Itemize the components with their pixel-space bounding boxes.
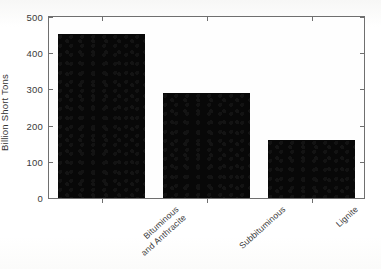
- bar: [268, 140, 354, 198]
- x-axis-tick-top: [207, 17, 208, 21]
- x-axis-category-label: Subbituminous: [237, 204, 288, 251]
- y-axis-tick: [49, 162, 53, 163]
- y-axis-tick-label: 400: [27, 48, 43, 59]
- y-axis-title: Billion Short Tons: [0, 74, 10, 151]
- x-axis-tick: [102, 198, 103, 203]
- y-axis-tick-label: 100: [27, 156, 43, 167]
- y-axis-tick: [49, 53, 53, 54]
- bar-chart-figure: Billion Short Tons 0100200300400500 Bitu…: [0, 0, 381, 269]
- x-axis-category-label: Bituminousand Anthracite: [131, 204, 187, 258]
- x-axis-tick: [207, 198, 208, 203]
- y-axis-tick-right: [360, 17, 364, 18]
- x-axis-category-line: Lignite: [333, 204, 360, 229]
- bar: [163, 93, 249, 198]
- y-axis-tick-label: 500: [27, 12, 43, 23]
- x-axis-tick-top: [102, 17, 103, 21]
- x-axis-tick: [312, 198, 313, 203]
- x-axis-category-line: Subbituminous: [237, 204, 288, 251]
- y-axis-tick-label: 0: [38, 193, 43, 204]
- y-axis-tick: [49, 17, 53, 18]
- bar: [58, 34, 144, 198]
- y-axis-tick-right: [360, 198, 364, 199]
- y-axis-tick-right: [360, 126, 364, 127]
- y-axis-tick: [49, 89, 53, 90]
- y-axis-tick-right: [360, 162, 364, 163]
- x-axis-category-label: Lignite: [333, 204, 360, 229]
- y-axis-tick: [49, 198, 53, 199]
- plot-area: 0100200300400500: [48, 16, 365, 199]
- y-axis-tick-label: 200: [27, 120, 43, 131]
- y-axis-tick-right: [360, 53, 364, 54]
- y-axis-tick-label: 300: [27, 84, 43, 95]
- y-axis-tick: [49, 126, 53, 127]
- y-axis-tick-right: [360, 89, 364, 90]
- x-axis-tick-top: [312, 17, 313, 21]
